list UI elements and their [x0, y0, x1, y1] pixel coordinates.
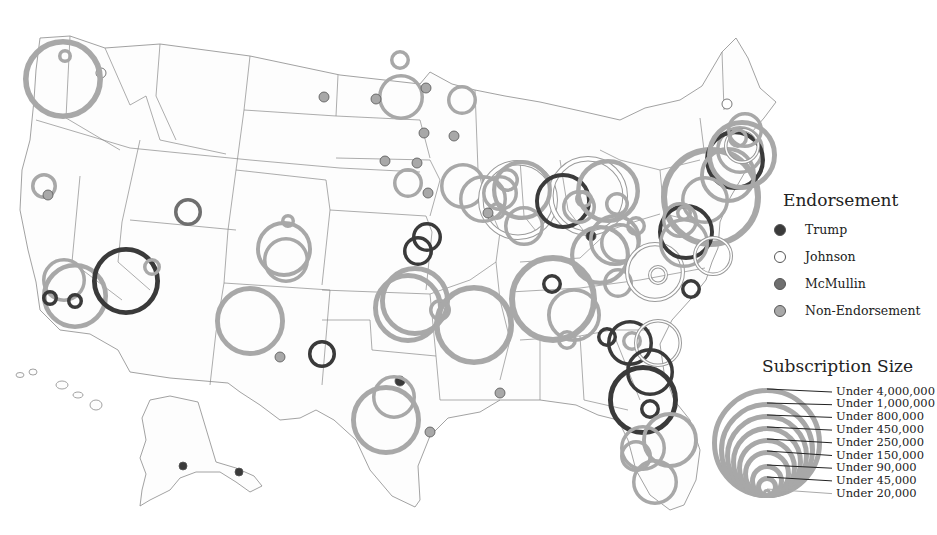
- size-tier-label: Under 450,000: [836, 424, 924, 435]
- size-tier-label: Under 800,000: [836, 411, 924, 422]
- size-tier-label: Under 20,000: [836, 488, 917, 499]
- size-tier-label: Under 1,000,000: [836, 398, 935, 409]
- size-legend-circles: [0, 0, 937, 535]
- size-tier-label: Under 45,000: [836, 475, 917, 486]
- size-tier-label: Under 90,000: [836, 462, 917, 473]
- size-tier-circle: [759, 479, 776, 496]
- size-tier-label: Under 250,000: [836, 437, 924, 448]
